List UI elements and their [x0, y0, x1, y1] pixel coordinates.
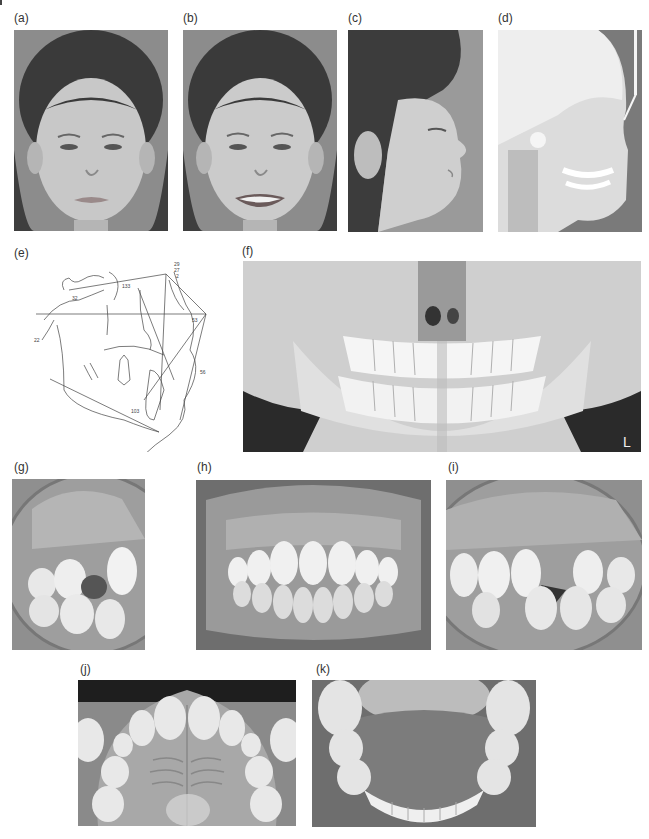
frontal-smile-photo [183, 30, 337, 231]
panel-label-g: (g) [14, 461, 29, 473]
maxillary-occlusal-photo [78, 680, 296, 826]
panoramic-side-marker: L [623, 434, 631, 450]
tracing-label-133: 133 [122, 283, 131, 289]
panel-label-d: (d) [498, 12, 513, 24]
tracing-label-32: 32 [72, 295, 78, 301]
panel-label-a: (a) [14, 12, 29, 24]
panel-label-h: (h) [197, 461, 212, 473]
profile-photo [348, 30, 483, 232]
panel-label-f: (f) [242, 245, 253, 257]
panel-label-j: (j) [80, 663, 91, 675]
page-corner-mark [0, 0, 2, 5]
right-buccal-photo [12, 479, 145, 650]
tracing-label-56: 56 [200, 369, 206, 375]
tracing-label-53: 53 [192, 317, 198, 323]
lateral-ceph-radiograph [498, 30, 642, 232]
frontal-intraoral-photo [196, 480, 431, 650]
panel-label-e: (e) [14, 247, 29, 259]
tracing-label-stack-3: 2 [176, 273, 179, 279]
panoramic-radiograph: L [243, 261, 641, 452]
panel-label-c: (c) [348, 12, 362, 24]
panel-label-b: (b) [183, 12, 198, 24]
left-buccal-photo [446, 480, 642, 650]
cephalometric-tracing: 32 133 22 53 56 103 29 27 2 [14, 260, 236, 452]
tracing-label-22: 22 [34, 337, 40, 343]
panel-label-i: (i) [448, 461, 459, 473]
mandibular-occlusal-photo [312, 680, 536, 827]
tracing-label-103: 103 [131, 408, 140, 414]
panel-label-k: (k) [316, 663, 330, 675]
frontal-rest-photo [14, 30, 168, 231]
